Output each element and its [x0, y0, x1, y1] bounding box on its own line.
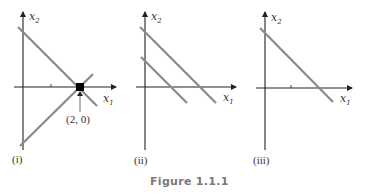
- x1-sub: 1: [229, 98, 233, 106]
- x2-sub: 2: [156, 17, 162, 25]
- svg-text:x1: x1: [223, 91, 234, 106]
- panel-label: (ii): [134, 154, 148, 167]
- panel-iii: x2 x1 (iii): [253, 11, 352, 167]
- svg-text:x2: x2: [271, 11, 282, 26]
- panel-label: (iii): [253, 154, 270, 167]
- svg-text:x1: x1: [103, 92, 114, 107]
- line-coincident: [260, 28, 333, 102]
- svg-text:x2: x2: [151, 10, 162, 25]
- panel-i: (2, 0) x2 x1 (i): [12, 10, 116, 166]
- x2-sub: 2: [276, 18, 282, 26]
- line-descending: [18, 27, 97, 106]
- figure-caption: Figure 1.1.1: [150, 175, 229, 188]
- panel-ii: x2 x1 (ii): [134, 10, 236, 167]
- figure-diagram: (2, 0) x2 x1 (i) x2 x1 (ii) x2 x1 (iii): [0, 0, 368, 194]
- x1-sub: 1: [346, 99, 350, 107]
- intersection-point: [76, 83, 84, 91]
- x2-sub: 2: [34, 17, 40, 25]
- line-lower: [141, 57, 187, 103]
- point-label: (2, 0): [66, 113, 90, 126]
- svg-text:x2: x2: [29, 10, 40, 25]
- x1-sub: 1: [109, 99, 113, 107]
- svg-text:x1: x1: [340, 92, 351, 107]
- line-upper: [140, 27, 216, 103]
- panel-label: (i): [12, 153, 23, 166]
